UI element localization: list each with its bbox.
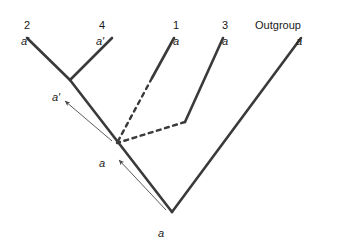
tip-label-2: 2 — [24, 20, 30, 31]
arrow-upper — [65, 101, 112, 141]
tip-label-1: 1 — [173, 20, 179, 31]
tip-label-outgroup: Outgroup — [255, 20, 301, 31]
transition-arrows — [65, 101, 166, 210]
tip-allele-4: a′ — [96, 36, 104, 47]
node-allele-node-root: a — [158, 228, 164, 239]
branch-taxon-1-dashed — [117, 78, 152, 143]
phylogenetic-tree-figure — [0, 0, 341, 240]
branch-outgroup — [172, 38, 301, 212]
node-allele-node-24: a′ — [52, 92, 60, 103]
branch-backbone — [70, 80, 172, 212]
tip-label-3: 3 — [222, 20, 228, 31]
tree-branches — [27, 38, 301, 212]
branch-taxon-3-solid — [185, 38, 223, 122]
branch-taxon-1-solid — [152, 38, 174, 78]
branch-taxon-2 — [27, 38, 70, 80]
tip-label-4: 4 — [99, 20, 105, 31]
tip-allele-outgroup: a — [296, 36, 302, 47]
node-allele-node-13: a — [99, 158, 105, 169]
tip-allele-3: a — [222, 36, 228, 47]
branch-taxon-4 — [70, 38, 112, 80]
tip-allele-1: a — [173, 36, 179, 47]
tip-allele-2: a′ — [21, 36, 29, 47]
arrow-lower — [119, 160, 166, 210]
